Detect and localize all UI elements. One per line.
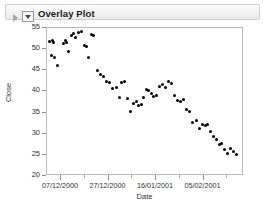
data-point[interactable] bbox=[206, 123, 209, 126]
data-point[interactable] bbox=[118, 96, 121, 99]
data-point[interactable] bbox=[65, 41, 68, 44]
data-point[interactable] bbox=[67, 50, 70, 53]
data-point[interactable] bbox=[85, 45, 88, 48]
x-axis-tick bbox=[203, 175, 204, 180]
scatter-plot: Close Date 202530354045505507/12/200027/… bbox=[0, 20, 265, 218]
y-axis-tick bbox=[42, 154, 46, 155]
overlay-plot-report-window: Overlay Plot Close Date 2025303540455055… bbox=[0, 0, 265, 218]
y-axis-tick bbox=[42, 175, 46, 176]
x-axis-tick bbox=[108, 175, 109, 180]
y-axis-tick-label: 55 bbox=[0, 22, 40, 31]
y-axis-tick-label: 20 bbox=[0, 170, 40, 179]
data-point[interactable] bbox=[170, 82, 173, 85]
disclosure-triangle-glyph bbox=[25, 15, 31, 19]
y-axis-tick-label: 45 bbox=[0, 64, 40, 73]
y-axis-tick bbox=[42, 69, 46, 70]
data-point[interactable] bbox=[108, 81, 111, 84]
data-point[interactable] bbox=[195, 119, 198, 122]
x-axis-minor-tick bbox=[179, 175, 180, 178]
data-point[interactable] bbox=[52, 41, 55, 44]
x-axis-title: Date bbox=[46, 192, 243, 201]
data-point[interactable] bbox=[126, 97, 129, 100]
data-point[interactable] bbox=[155, 94, 158, 97]
y-axis-tick bbox=[42, 27, 46, 28]
y-axis-tick-label: 30 bbox=[0, 128, 40, 137]
data-point[interactable] bbox=[226, 152, 229, 155]
data-point[interactable] bbox=[56, 64, 59, 67]
data-point[interactable] bbox=[102, 75, 105, 78]
data-point[interactable] bbox=[235, 153, 238, 156]
data-point[interactable] bbox=[173, 94, 176, 97]
data-point[interactable] bbox=[215, 138, 218, 141]
data-point[interactable] bbox=[140, 103, 143, 106]
data-point[interactable] bbox=[182, 98, 185, 101]
data-point[interactable] bbox=[232, 150, 235, 153]
x-axis-minor-tick bbox=[84, 175, 85, 178]
data-point[interactable] bbox=[129, 110, 132, 113]
x-axis-tick bbox=[60, 175, 61, 180]
x-axis-tick bbox=[155, 175, 156, 180]
plot-frame bbox=[46, 27, 243, 175]
x-axis-minor-tick bbox=[226, 175, 227, 178]
x-axis-tick-label: 05/02/2001 bbox=[168, 181, 238, 190]
y-axis-tick bbox=[42, 112, 46, 113]
data-point[interactable] bbox=[142, 96, 145, 99]
y-axis-tick bbox=[42, 90, 46, 91]
data-point[interactable] bbox=[158, 85, 161, 88]
x-axis-minor-tick bbox=[37, 175, 38, 178]
y-axis-tick-label: 25 bbox=[0, 149, 40, 158]
y-axis-tick-label: 40 bbox=[0, 85, 40, 94]
y-axis-tick-label: 50 bbox=[0, 43, 40, 52]
y-axis-tick bbox=[42, 133, 46, 134]
data-point[interactable] bbox=[87, 56, 90, 59]
data-point[interactable] bbox=[223, 148, 226, 151]
data-point[interactable] bbox=[115, 86, 118, 89]
data-point[interactable] bbox=[188, 110, 191, 113]
x-axis-minor-tick bbox=[131, 175, 132, 178]
page-title: Overlay Plot bbox=[38, 8, 95, 19]
data-point[interactable] bbox=[53, 56, 56, 59]
y-axis-tick-label: 35 bbox=[0, 107, 40, 116]
panel-titlebar[interactable]: Overlay Plot bbox=[5, 4, 260, 20]
data-point[interactable] bbox=[74, 36, 77, 39]
y-axis-tick bbox=[42, 48, 46, 49]
data-point[interactable] bbox=[72, 32, 75, 35]
data-point[interactable] bbox=[229, 147, 232, 150]
data-point[interactable] bbox=[123, 80, 126, 83]
